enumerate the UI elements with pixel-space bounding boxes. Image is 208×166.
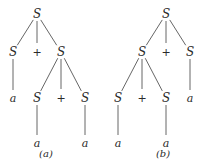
nonterminal-s: S (33, 91, 41, 105)
terminal-a: a (115, 137, 122, 150)
plus-operator: + (56, 92, 65, 105)
tree-edge (170, 20, 186, 45)
tree-edge (122, 58, 139, 91)
plus-operator: + (32, 46, 41, 59)
tree-edge (146, 20, 162, 45)
terminal-a: a (187, 92, 194, 105)
terminal-a: a (82, 137, 89, 150)
caption-b: (b) (156, 148, 170, 159)
parse-tree-diagram: SS+SaS+SaaSS+SS+Saaa (a) (b) (0, 0, 208, 166)
tree-edge (145, 58, 162, 91)
terminal-a: a (10, 92, 17, 105)
tree-edge (17, 20, 33, 45)
nonterminal-s: S (114, 91, 122, 105)
nonterminal-s: S (9, 45, 17, 59)
plus-operator: + (137, 92, 146, 105)
nonterminal-s: S (81, 91, 89, 105)
nonterminal-s: S (138, 45, 146, 59)
plus-operator: + (161, 46, 170, 59)
nonterminal-s: S (57, 45, 65, 59)
nonterminal-s: S (33, 7, 41, 21)
nonterminal-s: S (162, 91, 170, 105)
tree-edge (41, 58, 58, 91)
tree-edge (64, 58, 81, 91)
nonterminal-s: S (162, 7, 170, 21)
caption-a: (a) (39, 148, 53, 159)
nonterminal-s: S (186, 45, 194, 59)
tree-edge (41, 20, 57, 45)
